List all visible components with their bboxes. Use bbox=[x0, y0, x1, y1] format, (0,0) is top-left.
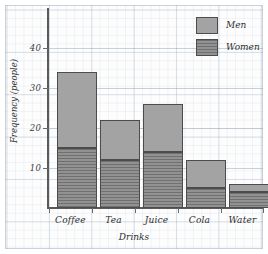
legend-label-men: Men bbox=[226, 20, 246, 30]
bar-water-women-segment[interactable] bbox=[229, 192, 268, 208]
x-tick-label-cola: Cola bbox=[178, 215, 221, 225]
bar-tea-men-segment[interactable] bbox=[100, 120, 140, 160]
x-tick-mark-3 bbox=[178, 208, 179, 213]
legend-swatch-women-icon bbox=[196, 39, 218, 56]
bar-juice-women-segment[interactable] bbox=[143, 152, 183, 208]
bar-cola-women-segment[interactable] bbox=[186, 188, 226, 208]
bar-tea[interactable] bbox=[100, 120, 140, 208]
bar-juice[interactable] bbox=[143, 104, 183, 208]
y-tick-label-30: 30 bbox=[0, 83, 41, 93]
bar-tea-women-segment[interactable] bbox=[100, 160, 140, 208]
y-tick-label-20: 20 bbox=[0, 123, 41, 133]
bar-juice-men-segment[interactable] bbox=[143, 104, 183, 152]
bar-coffee-men-segment[interactable] bbox=[57, 72, 97, 148]
bar-cola-men-segment[interactable] bbox=[186, 160, 226, 188]
legend-swatch-men-icon bbox=[196, 17, 218, 34]
bar-cola[interactable] bbox=[186, 160, 226, 208]
bar-water[interactable] bbox=[229, 184, 268, 208]
y-tick-label-10: 10 bbox=[0, 163, 41, 173]
x-tick-mark-0 bbox=[49, 208, 50, 213]
legend: Men Women bbox=[196, 16, 266, 60]
x-tick-label-water: Water bbox=[221, 215, 264, 225]
legend-item-women[interactable]: Women bbox=[196, 38, 266, 60]
y-tick-label-40: 40 bbox=[0, 43, 41, 53]
x-tick-mark-2 bbox=[135, 208, 136, 213]
legend-label-women: Women bbox=[226, 42, 260, 52]
x-tick-label-tea: Tea bbox=[92, 215, 135, 225]
bar-coffee[interactable] bbox=[57, 72, 97, 208]
bar-water-men-segment[interactable] bbox=[229, 184, 268, 192]
y-axis-title: Frequency (people) bbox=[9, 41, 19, 161]
x-tick-mark-1 bbox=[92, 208, 93, 213]
legend-item-men[interactable]: Men bbox=[196, 16, 266, 38]
x-tick-label-juice: Juice bbox=[135, 215, 178, 225]
bar-coffee-women-segment[interactable] bbox=[57, 148, 97, 208]
x-axis-title: Drinks bbox=[0, 232, 268, 242]
x-tick-mark-5 bbox=[263, 208, 264, 213]
x-tick-label-coffee: Coffee bbox=[49, 215, 92, 225]
x-tick-mark-4 bbox=[221, 208, 222, 213]
chart-figure: 40 30 20 10 Frequency (people) bbox=[0, 0, 268, 254]
